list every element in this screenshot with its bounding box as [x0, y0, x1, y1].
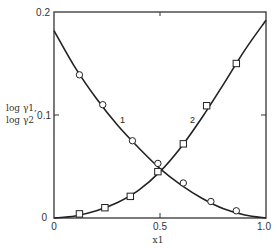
y-tick-label-0: 0 — [41, 212, 47, 223]
axis-ticks — [54, 12, 266, 218]
curve-2-label: 2 — [190, 115, 195, 125]
square-marker — [203, 103, 209, 109]
activity-coefficient-chart: 0.2 0.1 0 0 0.5 1.0 log γ1, log γ2 x1 1 … — [0, 0, 277, 248]
y-tick-label-0.1: 0.1 — [37, 110, 51, 121]
square-marker — [102, 205, 108, 211]
square-marker — [155, 168, 161, 174]
y-axis-title-line2: log γ2 — [6, 115, 34, 125]
curve-1-line — [54, 31, 266, 218]
x-axis-title: x1 — [153, 235, 164, 245]
curves — [54, 20, 266, 218]
circle-marker — [155, 160, 161, 166]
curve-2-line — [54, 20, 266, 218]
plot-frame — [54, 12, 266, 218]
circle-marker — [180, 180, 186, 186]
data-markers — [76, 60, 239, 217]
circle-marker — [76, 72, 82, 78]
x-tick-label-1.0: 1.0 — [257, 221, 271, 232]
square-marker — [127, 193, 133, 199]
y-tick-label-0.2: 0.2 — [36, 7, 50, 18]
circle-marker — [233, 208, 239, 214]
circle-marker — [100, 102, 106, 108]
x-tick-label-0: 0 — [51, 221, 57, 232]
x-tick-label-0.5: 0.5 — [153, 221, 167, 232]
square-marker — [180, 141, 186, 147]
circle-marker — [208, 198, 214, 204]
curve-1-label: 1 — [120, 115, 125, 125]
circle-marker — [129, 138, 135, 144]
y-axis-title-line1: log γ1, — [6, 103, 37, 113]
square-marker — [76, 211, 82, 217]
square-marker — [233, 60, 239, 66]
